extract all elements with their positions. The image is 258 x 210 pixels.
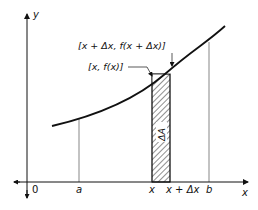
origin-label: 0 (32, 184, 38, 195)
pointer-arrow-left (128, 67, 152, 76)
tick-label-x: x (148, 184, 155, 195)
tick-label-x-plus-dx: x + Δx (165, 184, 199, 195)
area-diagram: y x 0 a x x + Δx b [x + Δx, f(x + Δx)] [… (0, 0, 258, 210)
tick-label-a: a (76, 184, 82, 195)
strip-label-group: ΔA (156, 122, 167, 142)
diagram-canvas: y x 0 a x x + Δx b [x + Δx, f(x + Δx)] [… (0, 0, 258, 210)
annotation-left-point: [x, f(x)] (88, 61, 124, 72)
x-axis-label: x (241, 187, 248, 198)
tick-label-b: b (206, 184, 212, 195)
annotation-right-point: [x + Δx, f(x + Δx)] (78, 40, 166, 51)
strip-label: ΔA (156, 128, 167, 142)
y-axis-label: y (32, 9, 40, 20)
